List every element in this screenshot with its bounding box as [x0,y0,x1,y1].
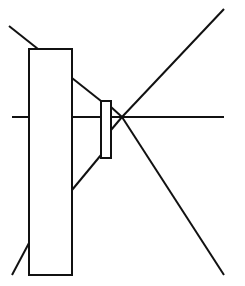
diverging-ray-up [122,9,224,117]
diverging-ray-down [122,117,224,275]
lower-ray-outer [12,243,29,275]
lower-ray-inner [72,155,101,190]
upper-ray-inner [72,78,101,101]
ray-diagram [0,0,245,286]
small-element-rect [101,101,111,158]
upper-ray-outer [9,26,38,49]
upper-ray-to-focus [111,107,122,117]
lower-ray-to-focus [111,117,122,130]
large-element-rect [29,49,72,275]
diagram-canvas [0,0,245,286]
